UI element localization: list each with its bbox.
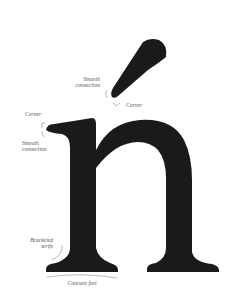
serif-corner-bracket <box>42 123 45 128</box>
serif-smooth-label: Smooth connection <box>22 140 47 153</box>
accent-corner-tick <box>113 103 120 106</box>
letter-n-shape <box>46 118 219 272</box>
bracketed-serifs-label: Bracketed serifs <box>16 237 53 250</box>
label-line: connection <box>62 82 100 88</box>
accent-smooth-bracket <box>106 90 108 98</box>
serif-smooth-bracket <box>42 131 45 137</box>
label-line: connection <box>22 146 47 152</box>
accent-smooth-label: Smooth connection <box>62 76 100 89</box>
label-line: serifs <box>16 243 53 249</box>
concave-feet-label: Concave feet <box>50 280 114 286</box>
acute-accent-shape <box>111 39 166 98</box>
bracketed-serif-leader <box>52 245 62 260</box>
serif-corner-label: Corner <box>25 111 41 117</box>
accent-corner-label: Corner <box>126 102 142 108</box>
concave-feet-line <box>47 275 117 278</box>
